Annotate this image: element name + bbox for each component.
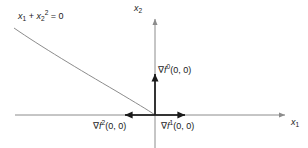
curve-eq-var1: x	[18, 11, 23, 21]
grad2-sup: 2	[102, 119, 106, 126]
curve-eq-sup2: 2	[45, 9, 49, 16]
gradient-f0-label: ∇f0(0, 0)	[158, 66, 191, 75]
curve-equation-label: x1 + x22 = 0	[18, 12, 64, 21]
gradient-f1-label: ∇f1(0, 0)	[161, 122, 194, 131]
grad2-args: (0, 0)	[105, 121, 126, 131]
x1-axis-sub: 1	[296, 121, 300, 128]
curve-eq-equals: = 0	[51, 11, 64, 21]
grad1-sup: 1	[170, 119, 174, 126]
grad0-args: (0, 0)	[170, 65, 191, 75]
curve-eq-sub1: 1	[23, 15, 27, 22]
x1-axis-label: x1	[291, 118, 299, 127]
x2-axis-var: x	[134, 3, 139, 13]
grad1-args: (0, 0)	[173, 121, 194, 131]
grad0-sup: 0	[167, 63, 171, 70]
gradient-f2-label: ∇f2(0, 0)	[93, 122, 126, 131]
diagram-canvas	[0, 0, 308, 148]
constraint-curve	[14, 28, 155, 115]
gradient-diagram-figure: x1 + x22 = 0 x2 x1 ∇f0(0, 0) ∇f2(0, 0) ∇…	[0, 0, 308, 148]
x1-axis-var: x	[291, 117, 296, 127]
x2-axis-sub: 2	[139, 7, 143, 14]
x2-axis-label: x2	[134, 4, 142, 13]
curve-eq-plus: +	[29, 11, 34, 21]
curve-eq-sub2: 2	[41, 15, 45, 22]
